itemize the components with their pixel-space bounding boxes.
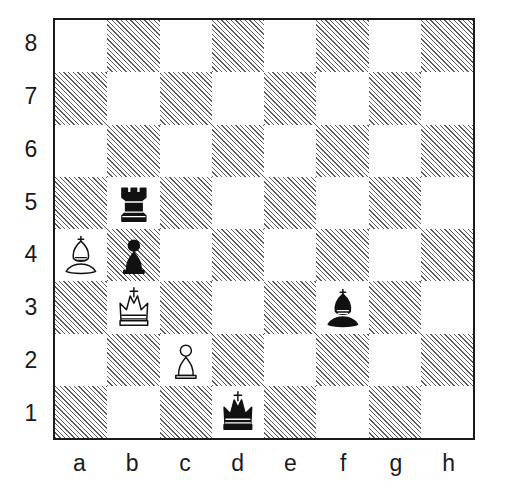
board-square-e7[interactable] xyxy=(264,72,316,124)
board-square-b3[interactable] xyxy=(107,281,159,333)
board-square-g6[interactable] xyxy=(369,125,421,177)
file-label-h: h xyxy=(434,452,464,475)
rank-label-1: 1 xyxy=(20,402,42,425)
board-square-b2[interactable] xyxy=(107,334,159,386)
board-square-c1[interactable] xyxy=(160,386,212,438)
file-label-d: d xyxy=(223,452,253,475)
board-square-g5[interactable] xyxy=(369,177,421,229)
board-square-f4[interactable] xyxy=(316,229,368,281)
rank-label-6: 6 xyxy=(20,138,42,161)
board-square-a1[interactable] xyxy=(55,386,107,438)
board-square-h7[interactable] xyxy=(421,72,473,124)
board-square-d1[interactable] xyxy=(212,386,264,438)
file-label-c: c xyxy=(170,452,200,475)
board-square-b6[interactable] xyxy=(107,125,159,177)
piece-white-king-icon[interactable] xyxy=(107,281,159,333)
board-square-h3[interactable] xyxy=(421,281,473,333)
board-square-c7[interactable] xyxy=(160,72,212,124)
board-square-c6[interactable] xyxy=(160,125,212,177)
board-square-d8[interactable] xyxy=(212,20,264,72)
board-square-c8[interactable] xyxy=(160,20,212,72)
rank-label-2: 2 xyxy=(20,349,42,372)
piece-black-bishop-icon[interactable] xyxy=(316,281,368,333)
board-square-a2[interactable] xyxy=(55,334,107,386)
board-square-f8[interactable] xyxy=(316,20,368,72)
board-square-f5[interactable] xyxy=(316,177,368,229)
board-square-d5[interactable] xyxy=(212,177,264,229)
piece-black-rook-icon[interactable] xyxy=(107,177,159,229)
board-square-c3[interactable] xyxy=(160,281,212,333)
file-label-e: e xyxy=(275,452,305,475)
board-square-a8[interactable] xyxy=(55,20,107,72)
board-square-h2[interactable] xyxy=(421,334,473,386)
board-square-h5[interactable] xyxy=(421,177,473,229)
board-square-b7[interactable] xyxy=(107,72,159,124)
board-square-f2[interactable] xyxy=(316,334,368,386)
board-square-f7[interactable] xyxy=(316,72,368,124)
board-square-d3[interactable] xyxy=(212,281,264,333)
board-square-a7[interactable] xyxy=(55,72,107,124)
piece-black-king-icon[interactable] xyxy=(212,386,264,438)
board-square-e4[interactable] xyxy=(264,229,316,281)
board-square-e8[interactable] xyxy=(264,20,316,72)
file-label-b: b xyxy=(117,452,147,475)
rank-label-5: 5 xyxy=(20,191,42,214)
board-square-f6[interactable] xyxy=(316,125,368,177)
board-square-e6[interactable] xyxy=(264,125,316,177)
board-square-f1[interactable] xyxy=(316,386,368,438)
piece-white-bishop-icon[interactable] xyxy=(55,229,107,281)
chess-board[interactable] xyxy=(53,18,475,440)
board-square-c5[interactable] xyxy=(160,177,212,229)
board-square-c2[interactable] xyxy=(160,334,212,386)
board-square-g4[interactable] xyxy=(369,229,421,281)
board-square-a3[interactable] xyxy=(55,281,107,333)
board-square-b4[interactable] xyxy=(107,229,159,281)
board-square-f3[interactable] xyxy=(316,281,368,333)
piece-black-pawn-icon[interactable] xyxy=(107,229,159,281)
board-square-h6[interactable] xyxy=(421,125,473,177)
board-square-b5[interactable] xyxy=(107,177,159,229)
board-square-b8[interactable] xyxy=(107,20,159,72)
board-square-a5[interactable] xyxy=(55,177,107,229)
board-square-h4[interactable] xyxy=(421,229,473,281)
board-square-g8[interactable] xyxy=(369,20,421,72)
board-square-d4[interactable] xyxy=(212,229,264,281)
chess-board-grid xyxy=(55,20,473,438)
board-square-g1[interactable] xyxy=(369,386,421,438)
board-square-d2[interactable] xyxy=(212,334,264,386)
rank-label-8: 8 xyxy=(20,32,42,55)
board-square-b1[interactable] xyxy=(107,386,159,438)
board-square-g3[interactable] xyxy=(369,281,421,333)
board-square-a4[interactable] xyxy=(55,229,107,281)
file-label-a: a xyxy=(64,452,94,475)
rank-label-4: 4 xyxy=(20,243,42,266)
board-square-d6[interactable] xyxy=(212,125,264,177)
file-label-g: g xyxy=(381,452,411,475)
board-square-e5[interactable] xyxy=(264,177,316,229)
board-square-e1[interactable] xyxy=(264,386,316,438)
board-square-e2[interactable] xyxy=(264,334,316,386)
board-square-d7[interactable] xyxy=(212,72,264,124)
board-square-g7[interactable] xyxy=(369,72,421,124)
board-square-h8[interactable] xyxy=(421,20,473,72)
file-label-f: f xyxy=(328,452,358,475)
board-square-c4[interactable] xyxy=(160,229,212,281)
board-square-g2[interactable] xyxy=(369,334,421,386)
piece-white-pawn-icon[interactable] xyxy=(160,334,212,386)
board-square-a6[interactable] xyxy=(55,125,107,177)
board-square-e3[interactable] xyxy=(264,281,316,333)
chess-diagram: 87654321 abcdefgh xyxy=(0,0,512,499)
rank-label-7: 7 xyxy=(20,85,42,108)
rank-label-3: 3 xyxy=(20,296,42,319)
board-square-h1[interactable] xyxy=(421,386,473,438)
